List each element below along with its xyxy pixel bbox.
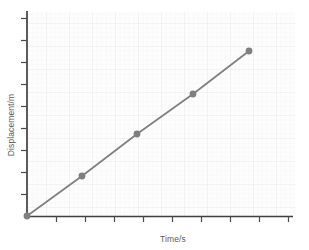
x-axis-label: Time/s	[160, 234, 186, 244]
data-point	[24, 213, 31, 220]
displacement-time-chart: Displacement/m Time/s	[0, 0, 309, 250]
y-axis-label: Displacement/m	[6, 94, 16, 156]
y-axis-ticks	[21, 19, 27, 195]
data-point	[134, 131, 141, 138]
data-point	[190, 91, 197, 98]
data-point	[246, 48, 253, 55]
chart-screenshot: Displacement/m Time/s	[0, 0, 309, 250]
data-point	[79, 173, 86, 180]
